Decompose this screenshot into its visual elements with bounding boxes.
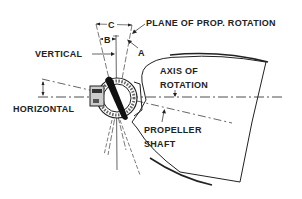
vertical-arrow-icon xyxy=(111,52,115,56)
plane-of-rotation-label: PLANE OF PROP. ROTATION xyxy=(146,18,276,28)
axis-arrow-icon xyxy=(173,93,177,97)
dimension-c-arrow-right-icon xyxy=(128,24,132,27)
angle-a-label: A xyxy=(138,48,145,58)
propeller-shaft-label-line1: PROPELLER xyxy=(144,125,202,135)
propeller-angle-diagram: C B A PLANE OF PROP. ROTATION VERTICAL H… xyxy=(0,0,302,199)
vertical-label: VERTICAL xyxy=(35,49,83,59)
horizontal-label: HORIZONTAL xyxy=(13,104,75,114)
axis-of-rotation-label-line1: AXIS OF xyxy=(160,66,198,76)
tilt-arrow-top-icon xyxy=(42,81,45,85)
shaft-arrow-icon xyxy=(162,109,166,114)
lower-unit-housing xyxy=(132,56,266,182)
angle-a-arrow-icon xyxy=(127,40,132,45)
angle-c-label: C xyxy=(108,20,115,30)
tilt-arrow-bottom-icon xyxy=(42,92,45,96)
housing-bottom-edge xyxy=(150,158,212,185)
housing-top-edge xyxy=(170,54,268,62)
dimension-c-arrow-left-icon xyxy=(96,23,100,26)
dimension-b-arrow-right-icon xyxy=(112,38,116,41)
angle-b-label: B xyxy=(104,35,111,45)
plane-line-lower-left xyxy=(104,120,112,155)
axis-of-rotation-label-line2: ROTATION xyxy=(160,80,208,90)
propeller-shaft-label-line2: SHAFT xyxy=(144,139,176,149)
plane-of-rotation-arrow-line xyxy=(134,24,145,32)
